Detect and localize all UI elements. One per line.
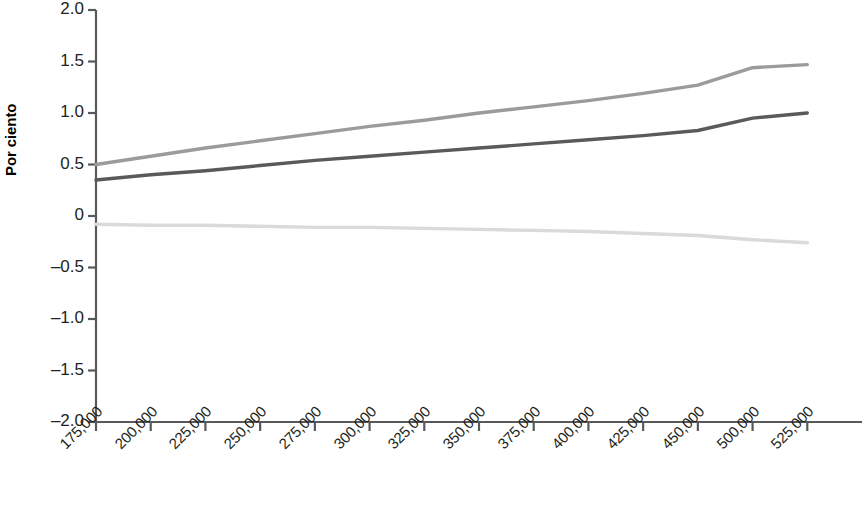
y-tick-label: 1.5: [24, 51, 84, 71]
series-line-middle-line: [96, 113, 807, 180]
y-axis-ticks: [88, 10, 96, 422]
y-tick-label: –0.5: [24, 257, 84, 277]
y-axis-title: Por ciento: [2, 46, 26, 176]
data-series-group: [96, 65, 807, 243]
y-tick-label: 1.0: [24, 102, 84, 122]
y-tick-label: 0.5: [24, 154, 84, 174]
axis-lines: [96, 10, 862, 422]
y-tick-label: –1.5: [24, 360, 84, 380]
chart-figure: Por ciento 2.01.51.00.50–0.5–1.0–1.5–2.0…: [0, 0, 866, 505]
y-tick-label: –1.0: [24, 308, 84, 328]
series-line-lower-line: [96, 224, 807, 243]
y-tick-label: 0: [24, 205, 84, 225]
y-tick-label: 2.0: [24, 0, 84, 19]
